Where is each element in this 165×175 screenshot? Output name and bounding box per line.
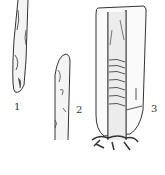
grafted-stem-3 (92, 6, 146, 150)
label-2: 2 (76, 104, 82, 115)
scion-2 (55, 54, 70, 140)
grafting-illustration (0, 0, 165, 175)
label-1: 1 (14, 101, 20, 112)
branch-1 (13, 0, 28, 92)
label-3: 3 (151, 103, 157, 114)
